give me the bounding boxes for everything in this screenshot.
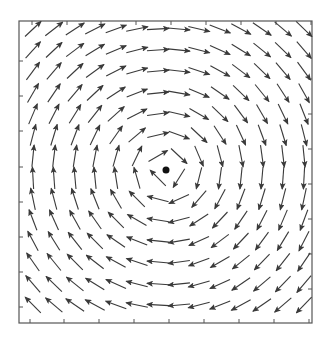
vector-arrow bbox=[211, 87, 229, 100]
vector-arrow bbox=[89, 211, 102, 229]
vector-arrow bbox=[210, 46, 230, 55]
vector-arrow bbox=[46, 43, 62, 58]
vector-arrow bbox=[91, 189, 99, 209]
vector-arrow bbox=[171, 149, 187, 164]
vector-arrow bbox=[217, 145, 223, 166]
vector-arrow bbox=[126, 47, 147, 52]
vector-arrow bbox=[261, 145, 264, 167]
vector-arrow bbox=[169, 195, 189, 204]
vector-arrow bbox=[134, 167, 140, 188]
vector-arrow bbox=[46, 298, 63, 312]
vector-arrow bbox=[234, 105, 247, 123]
vector-arrow bbox=[240, 167, 242, 189]
vector-arrow bbox=[190, 214, 208, 226]
vector-arrow bbox=[254, 277, 271, 291]
vector-arrow bbox=[106, 301, 127, 309]
vector-arrow bbox=[257, 210, 267, 230]
vector-arrow bbox=[67, 64, 83, 79]
vector-arrow bbox=[69, 105, 81, 124]
vector-arrow bbox=[278, 104, 288, 124]
vector-arrow bbox=[29, 210, 37, 231]
vector-arrow bbox=[213, 212, 228, 228]
vector-arrow bbox=[86, 65, 104, 78]
vector-arrow bbox=[31, 188, 36, 210]
vector-arrow bbox=[51, 188, 57, 209]
vector-arrow bbox=[233, 85, 249, 100]
vector-arrow bbox=[168, 283, 190, 285]
vector-arrow bbox=[219, 167, 222, 189]
vector-arrow bbox=[231, 300, 250, 311]
vector-arrow bbox=[233, 255, 250, 269]
vector-arrow bbox=[150, 170, 166, 186]
vector-arrow bbox=[94, 167, 96, 189]
vector-arrow bbox=[53, 167, 55, 189]
vector-arrow bbox=[297, 276, 311, 293]
vector-arrow bbox=[232, 278, 250, 290]
vector-arrow bbox=[49, 104, 59, 124]
vector-arrow bbox=[27, 253, 40, 271]
vector-arrow bbox=[210, 279, 230, 288]
vector-arrow bbox=[168, 91, 190, 95]
vector-arrow bbox=[86, 255, 103, 269]
vector-arrow bbox=[74, 167, 76, 189]
vector-arrow bbox=[298, 62, 311, 80]
vector-arrow bbox=[279, 210, 288, 230]
vector-arrow bbox=[66, 43, 84, 56]
vector-arrow bbox=[108, 212, 124, 228]
vector-arrow bbox=[86, 278, 105, 290]
vector-arrow bbox=[132, 146, 142, 166]
vector-arrow bbox=[236, 125, 245, 145]
vector-arrow bbox=[168, 112, 189, 117]
vector-arrow bbox=[257, 105, 268, 124]
vector-arrow bbox=[147, 70, 169, 72]
vector-arrow bbox=[231, 24, 250, 34]
vector-arrow bbox=[168, 49, 190, 51]
vector-arrow bbox=[147, 113, 169, 116]
vector-arrow bbox=[127, 89, 148, 97]
vector-arrow bbox=[189, 89, 209, 98]
vector-arrow bbox=[303, 167, 304, 189]
vector-arrow bbox=[189, 236, 209, 245]
vector-arrow bbox=[211, 257, 230, 268]
vector-arrow bbox=[258, 125, 266, 146]
vector-arrow bbox=[299, 83, 310, 102]
vector-arrow bbox=[50, 210, 59, 230]
vector-arrow bbox=[126, 281, 147, 286]
vector-arrow bbox=[28, 84, 39, 103]
vector-arrow bbox=[25, 297, 41, 313]
vector-arrow bbox=[275, 22, 292, 36]
vector-arrow bbox=[48, 84, 60, 102]
vector-arrow bbox=[53, 145, 56, 167]
vector-arrow bbox=[147, 92, 169, 94]
vector-arrow bbox=[149, 151, 168, 162]
vector-arrow bbox=[30, 124, 36, 145]
vector-arrow bbox=[47, 63, 61, 80]
vector-arrow bbox=[253, 23, 271, 35]
vector-arrow bbox=[107, 235, 125, 248]
vector-arrow bbox=[147, 218, 169, 221]
vector-arrow bbox=[254, 43, 271, 57]
vector-arrow bbox=[46, 276, 62, 291]
vector-arrow bbox=[235, 211, 247, 229]
vector-arrow bbox=[127, 237, 147, 245]
vector-arrow bbox=[211, 234, 229, 247]
vector-arrow bbox=[67, 254, 83, 270]
vector-arrow bbox=[239, 145, 243, 167]
vector-arrow bbox=[85, 300, 104, 310]
vector-arrow bbox=[48, 232, 60, 251]
vector-arrow bbox=[296, 21, 312, 36]
vector-arrow bbox=[275, 42, 291, 57]
vector-arrow bbox=[72, 189, 79, 210]
vector-arrow bbox=[128, 215, 147, 226]
vector-arrow bbox=[73, 145, 76, 167]
vector-arrow bbox=[277, 84, 289, 102]
vector-arrow bbox=[168, 28, 190, 30]
vector-arrow bbox=[210, 25, 231, 33]
vector-arrow bbox=[210, 66, 229, 77]
vector-arrow bbox=[32, 145, 34, 167]
vector-arrow bbox=[301, 124, 306, 145]
vector-arrow bbox=[106, 280, 126, 289]
vector-arrow bbox=[127, 259, 148, 266]
vector-arrow bbox=[66, 23, 84, 35]
vector-arrow bbox=[126, 68, 147, 74]
